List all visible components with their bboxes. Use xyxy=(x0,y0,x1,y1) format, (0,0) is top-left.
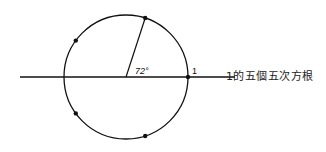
root-point-0 xyxy=(186,75,190,79)
root-point-144 xyxy=(74,38,78,42)
root-point-288 xyxy=(143,134,147,138)
root-point-216 xyxy=(74,111,78,115)
root-point-72 xyxy=(143,16,147,20)
unit-label: 1 xyxy=(192,66,197,76)
diagram-caption: 1的五個五次方根 xyxy=(226,67,314,83)
angle-label: 72° xyxy=(135,66,149,76)
